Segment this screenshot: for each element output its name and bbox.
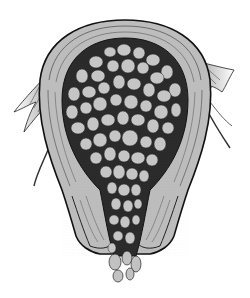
medical-illustration <box>0 0 250 285</box>
vesicle-mass <box>62 38 188 256</box>
figure-caption <box>2 288 248 298</box>
